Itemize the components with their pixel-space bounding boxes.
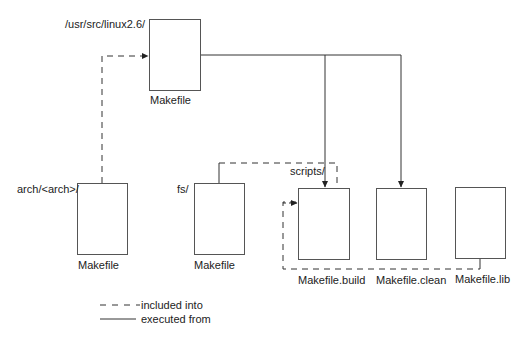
- edge-arch-included-into-top: [102, 56, 148, 183]
- fs-makefile-box: [194, 183, 245, 255]
- arch-dir-label: arch/<arch>/: [17, 183, 79, 195]
- lib-file-label: Makefile.lib: [455, 273, 510, 285]
- fs-dir-label: fs/: [177, 183, 189, 195]
- top-dir-label: /usr/src/linux2.6/: [65, 18, 145, 30]
- clean-file-label: Makefile.clean: [376, 274, 446, 286]
- makefile-clean-box: [376, 188, 427, 260]
- fs-file-label: Makefile: [194, 259, 235, 271]
- build-file-label: Makefile.build: [298, 274, 365, 286]
- top-makefile-box: [149, 19, 201, 91]
- arch-file-label: Makefile: [78, 259, 119, 271]
- diagram-canvas: [0, 0, 525, 340]
- makefile-lib-box: [455, 187, 506, 259]
- scripts-dir-label: scripts/: [290, 165, 325, 177]
- top-file-label: Makefile: [150, 94, 191, 106]
- makefile-build-box: [298, 188, 350, 260]
- arch-makefile-box: [77, 183, 128, 255]
- legend-lines: [100, 305, 140, 319]
- legend-dashed-label: included into: [141, 299, 203, 311]
- legend-solid-label: executed from: [141, 313, 211, 325]
